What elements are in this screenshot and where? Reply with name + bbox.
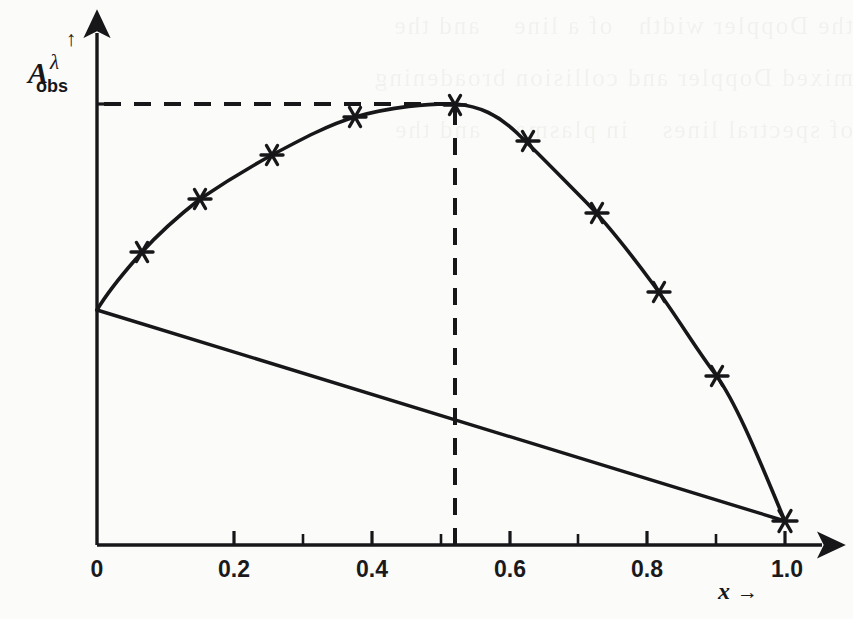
x-tick-label-0.8: 0.8 [631,556,663,583]
y-axis-symbol-affixes: λobs [49,64,81,94]
figure-canvas: the Doppler width of a line and the mixe… [0,0,853,619]
x-axis-label-symbol: x [718,578,730,604]
x-tick-label-0: 0 [91,556,104,583]
data-point-marker-endpoint [773,511,797,532]
x-axis-major-ticks [234,531,785,545]
x-axis-arrow-icon: → [737,580,758,603]
observed-absorption-curve [97,104,785,521]
data-point-marker [648,283,670,302]
data-point-marker [706,367,728,386]
y-axis-subscript: obs [36,79,68,94]
data-point-marker [344,108,366,127]
y-axis-arrow-icon: ↑ [44,30,98,50]
x-tick-label-0.4: 0.4 [356,556,388,583]
y-axis-superscript: λ [50,55,82,70]
y-axis-label: ↑ Aλobs [24,30,98,94]
curve-data-point-markers [131,96,797,532]
data-point-marker [261,146,283,165]
x-tick-label-0.6: 0.6 [494,556,526,583]
x-axis-label: x→ [718,578,758,605]
plot-area [0,0,853,619]
linear-background-line [97,310,785,521]
x-tick-label-1.0: 1.0 [771,556,803,583]
x-tick-label-0.2: 0.2 [218,556,250,583]
y-axis-symbol: Aλobs [24,56,98,94]
